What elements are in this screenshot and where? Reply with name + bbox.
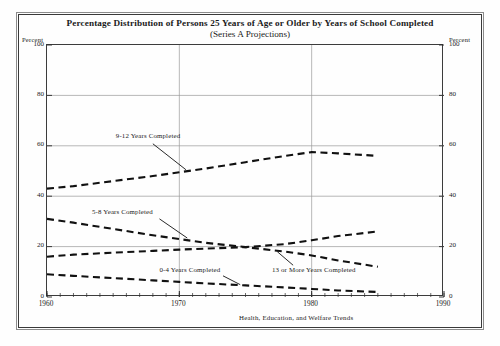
series-annotation-label: 5-8 Years Completed <box>92 208 153 216</box>
y-axis-tick-marks <box>47 45 444 297</box>
series-annotation-label: 9-12 Years Completed <box>116 132 180 140</box>
x-axis-tick-label: 1960 <box>26 300 66 308</box>
chart-figure: Percentage Distribution of Persons 25 Ye… <box>0 0 500 346</box>
y-axis-tick-label: 20 <box>449 242 471 249</box>
page-title: Percentage Distribution of Persons 25 Ye… <box>30 17 470 29</box>
y-axis-tick-label: 80 <box>22 91 44 98</box>
y-axis-tick-label: 60 <box>449 141 471 148</box>
y-axis-tick-label: 100 <box>449 41 471 48</box>
plot-area: 9-12 Years Completed5-8 Years Completed0… <box>46 44 443 296</box>
series-line <box>47 219 378 267</box>
y-axis-tick-label: 100 <box>22 41 44 48</box>
series-line <box>47 152 378 189</box>
chart-title-block: Percentage Distribution of Persons 25 Ye… <box>30 17 470 40</box>
series-line <box>47 274 378 292</box>
y-axis-tick-label: 40 <box>449 192 471 199</box>
x-axis-minor-ticks <box>47 293 444 297</box>
series-annotation-label: 13 or More Years Completed <box>272 266 356 274</box>
x-axis-tick-label: 1970 <box>158 300 198 308</box>
source-note: Health, Education, and Welfare Trends <box>239 314 353 321</box>
y-axis-tick-label: 60 <box>22 141 44 148</box>
x-axis-tick-label: 1990 <box>423 300 463 308</box>
chart-subtitle: (Series A Projections) <box>30 29 470 40</box>
x-axis-tick-label: 1980 <box>291 300 331 308</box>
y-axis-tick-label: 80 <box>449 91 471 98</box>
y-axis-tick-label: 0 <box>449 293 471 300</box>
plot-svg <box>47 45 444 297</box>
series-annotation-label: 0-4 Years Completed <box>159 266 220 274</box>
y-axis-tick-label: 40 <box>22 192 44 199</box>
gridlines <box>47 45 444 297</box>
y-axis-tick-label: 20 <box>22 242 44 249</box>
